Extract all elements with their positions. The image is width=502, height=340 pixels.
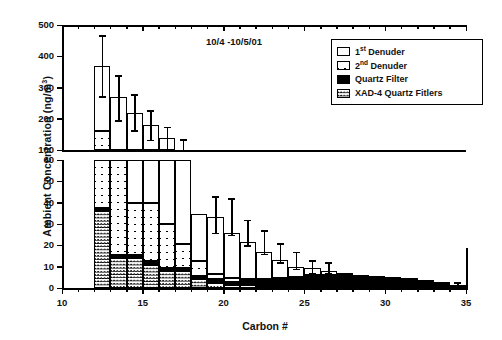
bar-segment-denuder2[interactable] <box>256 279 272 281</box>
bar-segment-xad4[interactable] <box>385 287 401 289</box>
bar-segment-quartz[interactable] <box>224 282 240 285</box>
bar-segment-denuder2[interactable] <box>175 244 191 267</box>
error-bar-cap-bottom <box>99 96 106 98</box>
x-tick-label: 30 <box>370 297 400 308</box>
bar-segment-denuder1[interactable] <box>240 242 256 279</box>
error-bar-cap-top <box>115 75 122 77</box>
bar-segment-quartz[interactable] <box>321 275 337 287</box>
bar-segment-xad4[interactable] <box>369 287 385 289</box>
bar-segment-quartz[interactable] <box>159 268 175 271</box>
bar-segment-xad4[interactable] <box>224 285 240 288</box>
bar-segment-xad4[interactable] <box>288 286 304 288</box>
legend-label-xad4: XAD-4 Quartz Fitlers <box>355 88 443 98</box>
error-bar-line <box>150 110 152 140</box>
lower-y-tick-label: 0 <box>20 283 54 293</box>
bar-segment-xad4[interactable] <box>401 287 417 289</box>
x-tick-top-mirror <box>288 25 290 29</box>
bar-segment-xad4[interactable] <box>418 287 434 289</box>
bar-segment-xad4[interactable] <box>143 265 159 288</box>
x-tick-top-mirror <box>223 25 225 31</box>
bar-segment-xad4[interactable] <box>450 288 466 290</box>
bar-segment-denuder2[interactable] <box>94 131 110 150</box>
bar-segment-denuder2[interactable] <box>321 275 337 277</box>
bar-segment-denuder2[interactable] <box>94 160 110 208</box>
bar-segment-quartz[interactable] <box>353 276 369 287</box>
bar-segment-xad4[interactable] <box>207 283 223 288</box>
bar-segment-denuder1[interactable] <box>143 160 159 203</box>
bar-segment-quartz[interactable] <box>127 255 143 258</box>
bar-segment-denuder2[interactable] <box>191 261 207 276</box>
lower-y-tick <box>57 202 63 204</box>
bar-segment-quartz[interactable] <box>288 278 304 287</box>
bar-segment-denuder1[interactable] <box>434 282 450 284</box>
bar-segment-quartz[interactable] <box>175 268 191 271</box>
lower-y-tick <box>57 224 63 226</box>
bar-segment-xad4[interactable] <box>272 286 288 288</box>
bar-segment-denuder1[interactable] <box>224 233 240 279</box>
bar-segment-xad4[interactable] <box>256 286 272 288</box>
bar-segment-quartz[interactable] <box>110 255 126 258</box>
x-tick-top-mirror <box>158 25 160 29</box>
bar-segment-denuder1[interactable] <box>191 214 207 261</box>
legend-label-text: Denuder <box>368 61 407 71</box>
legend-item-1st-denuder[interactable]: 1st Denuder <box>337 44 476 58</box>
x-tick-top-mirror <box>385 25 387 31</box>
bar-segment-denuder2[interactable] <box>240 279 256 281</box>
bar-segment-denuder1[interactable] <box>353 275 369 277</box>
upper-y-tick <box>57 118 63 120</box>
bar-segment-denuder1[interactable] <box>159 160 175 224</box>
bar-segment-quartz[interactable] <box>143 261 159 264</box>
bar-segment-xad4[interactable] <box>110 258 126 288</box>
bar-segment-denuder1[interactable] <box>418 280 434 282</box>
bar-segment-denuder2[interactable] <box>224 278 240 281</box>
bar-segment-denuder1[interactable] <box>127 160 143 203</box>
bar-segment-denuder1[interactable] <box>337 273 353 275</box>
bar-segment-denuder2[interactable] <box>159 224 175 268</box>
bar-segment-xad4[interactable] <box>159 271 175 288</box>
bar-segment-quartz[interactable] <box>207 279 223 282</box>
bar-segment-quartz[interactable] <box>191 276 207 279</box>
bar-segment-quartz[interactable] <box>240 281 256 285</box>
error-bar-cap-bottom <box>244 245 251 247</box>
bar-segment-quartz[interactable] <box>256 281 272 286</box>
bar-segment-denuder2[interactable] <box>143 203 159 262</box>
lower-y-tick-label: 60 <box>20 155 54 165</box>
bar-segment-denuder2[interactable] <box>272 278 288 280</box>
error-bar-cap-bottom <box>212 233 219 235</box>
bar-segment-xad4[interactable] <box>94 211 110 288</box>
lower-y-tick-label: 30 <box>20 219 54 229</box>
bar-segment-denuder1[interactable] <box>401 278 417 280</box>
bar-segment-xad4[interactable] <box>240 285 256 288</box>
bar-segment-denuder1[interactable] <box>256 252 272 279</box>
bar-segment-quartz[interactable] <box>272 279 288 285</box>
error-bar-cap-top <box>228 198 235 200</box>
error-bar-line <box>215 196 217 232</box>
bar-segment-quartz[interactable] <box>94 208 110 211</box>
bar-segment-xad4[interactable] <box>337 287 353 289</box>
bar-segment-xad4[interactable] <box>127 258 143 288</box>
bar-segment-denuder1[interactable] <box>175 160 191 244</box>
bar-segment-xad4[interactable] <box>434 287 450 289</box>
bar-segment-xad4[interactable] <box>304 287 320 289</box>
bar-segment-denuder1[interactable] <box>369 276 385 278</box>
legend-item-quartz-filter[interactable]: Quartz Filter <box>337 72 476 86</box>
bar-segment-denuder1[interactable] <box>385 277 401 279</box>
bar-segment-denuder2[interactable] <box>127 203 143 255</box>
bar-segment-xad4[interactable] <box>175 271 191 288</box>
bar-segment-denuder2[interactable] <box>304 275 320 277</box>
bar-segment-quartz[interactable] <box>304 276 320 287</box>
error-bar-cap-top <box>147 110 154 112</box>
x-tick-top-mirror <box>94 25 96 29</box>
x-tick-top-mirror <box>352 25 354 29</box>
bar-segment-denuder2[interactable] <box>110 160 126 255</box>
bar-segment-xad4[interactable] <box>321 287 337 289</box>
legend-item-2nd-denuder[interactable]: 2nd Denuder <box>337 58 476 72</box>
bar-segment-xad4[interactable] <box>353 287 369 289</box>
x-tick-label: 35 <box>451 297 481 308</box>
bar-segment-quartz[interactable] <box>337 275 353 287</box>
x-tick-label: 15 <box>128 297 158 308</box>
legend-item-xad4-quartz-filters[interactable]: XAD-4 Quartz Fitlers <box>337 86 476 100</box>
bar-segment-xad4[interactable] <box>191 279 207 288</box>
bar-segment-denuder2[interactable] <box>288 277 304 279</box>
bar-segment-denuder2[interactable] <box>207 274 223 279</box>
